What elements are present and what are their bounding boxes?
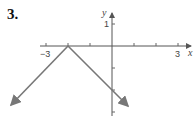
- graph: −3 3 1 x y: [0, 0, 195, 124]
- x-axis-label: x: [187, 47, 193, 58]
- x-tick-label-neg3: −3: [40, 49, 50, 59]
- curve-right-branch: [68, 46, 128, 106]
- y-axis-label: y: [101, 7, 107, 18]
- y-tick-label-1: 1: [104, 19, 109, 29]
- x-tick-label-3: 3: [175, 49, 180, 59]
